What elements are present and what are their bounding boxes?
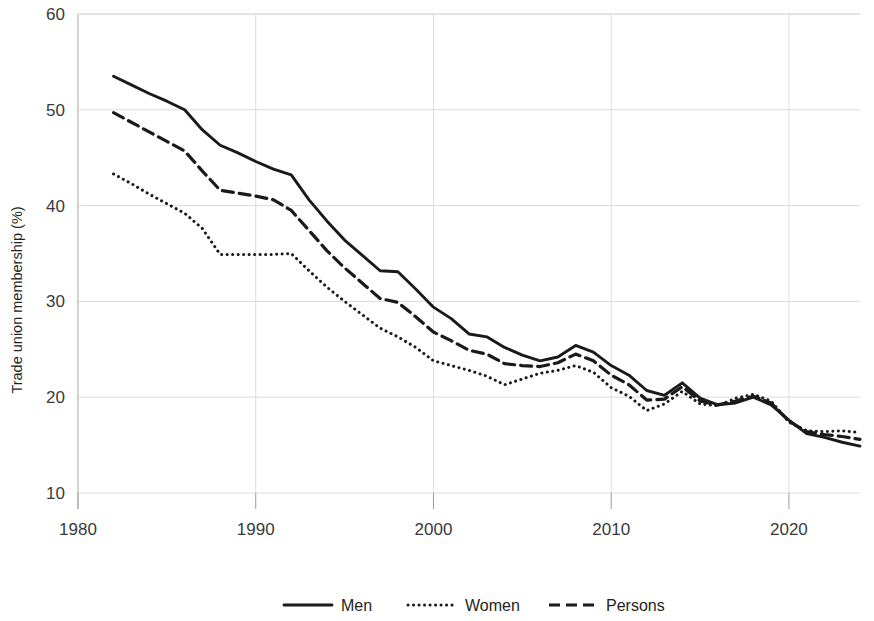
legend-label-persons: Persons — [606, 597, 665, 614]
y-tick-label: 20 — [46, 388, 65, 407]
x-tick-label: 2020 — [770, 520, 808, 539]
y-tick-label: 30 — [46, 292, 65, 311]
series-line-women — [114, 174, 860, 433]
x-tick-labels: 19801990200020102020 — [59, 520, 808, 539]
trade-union-membership-chart: 102030405060 19801990200020102020 Trade … — [0, 0, 874, 621]
y-axis-title: Trade union membership (%) — [9, 206, 25, 393]
y-tick-label: 50 — [46, 101, 65, 120]
y-tick-label: 60 — [46, 5, 65, 24]
x-tick-label: 1990 — [237, 520, 275, 539]
x-tick-label: 1980 — [59, 520, 97, 539]
tick-marks — [78, 493, 789, 509]
chart-legend: MenWomenPersons — [284, 597, 665, 614]
x-gridlines — [78, 14, 789, 493]
y-gridlines — [78, 14, 860, 493]
x-tick-label: 2010 — [592, 520, 630, 539]
axis-lines — [78, 14, 860, 509]
x-tick-label: 2000 — [415, 520, 453, 539]
chart-svg: 102030405060 19801990200020102020 Trade … — [0, 0, 874, 621]
y-tick-label: 40 — [46, 197, 65, 216]
y-tick-labels: 102030405060 — [46, 5, 65, 503]
legend-label-women: Women — [465, 597, 520, 614]
series-line-men — [114, 76, 860, 446]
data-series-group — [114, 76, 860, 446]
y-tick-label: 10 — [46, 484, 65, 503]
legend-label-men: Men — [341, 597, 372, 614]
series-line-persons — [114, 113, 860, 440]
